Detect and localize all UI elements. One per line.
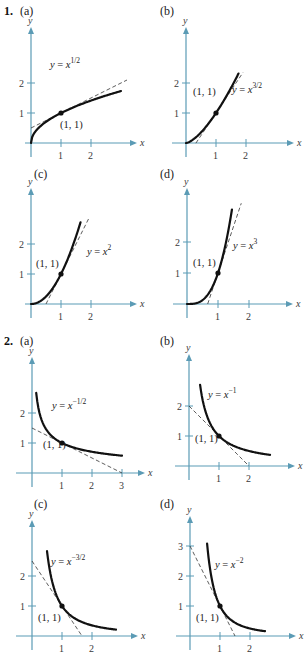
x-axis-label: x xyxy=(139,137,145,148)
y-tick-label: 2 xyxy=(178,571,183,582)
x-axis-label: x xyxy=(298,630,304,641)
x-axis-arrow-icon xyxy=(131,633,138,639)
y-axis-label: y xyxy=(27,176,33,187)
x-tick-label: 2 xyxy=(243,150,248,161)
x-tick-label: 1 xyxy=(216,473,221,484)
point-label: (1, 1) xyxy=(195,433,218,445)
x-tick-label: 1 xyxy=(59,643,64,654)
x-tick-label: 1 xyxy=(58,311,63,322)
y-tick-label: 1 xyxy=(20,438,25,449)
x-axis-label: x xyxy=(147,467,153,478)
x-axis-arrow-icon xyxy=(287,140,294,146)
x-axis-label: x xyxy=(295,298,301,309)
y-axis-arrow-icon xyxy=(183,27,189,34)
x-axis-arrow-icon xyxy=(288,463,295,469)
plot-2d: xy12123y = x−2(1, 1) xyxy=(176,504,304,654)
x-tick-label: 1 xyxy=(215,311,220,322)
y-axis-arrow-icon xyxy=(187,516,193,523)
x-tick-label: 1 xyxy=(213,150,218,161)
x-tick-label: 2 xyxy=(89,643,94,654)
y-tick-label: 2 xyxy=(177,401,182,412)
equation-label: y = x−1 xyxy=(207,386,237,400)
y-axis-arrow-icon xyxy=(28,27,34,34)
point-label: (1, 1) xyxy=(193,86,216,98)
problem-number-2: 2. xyxy=(4,334,13,348)
y-axis-arrow-icon xyxy=(29,520,35,527)
figure-canvas: 1. (a) (b) (c) (d) 2. (a) (b) (c) (d) xy… xyxy=(0,0,304,666)
x-tick-label: 1 xyxy=(59,480,64,491)
y-tick-label: 1 xyxy=(19,108,24,119)
y-axis-label: y xyxy=(183,176,189,187)
equation-label: y = x2 xyxy=(86,243,112,257)
plot-2a: xy12312y = x−1/2(1, 1) xyxy=(16,345,153,491)
x-axis-arrow-icon xyxy=(286,301,293,307)
y-tick-label: 1 xyxy=(175,268,180,279)
plot-2c: xy1212y = x−3/2(1, 1) xyxy=(16,508,146,654)
x-tick-label: 2 xyxy=(88,150,93,161)
x-axis-arrow-icon xyxy=(130,301,137,307)
point-label: (1, 1) xyxy=(196,612,219,624)
point-label: (1, 1) xyxy=(60,119,83,131)
y-axis-label: y xyxy=(182,15,188,26)
tangent-point xyxy=(58,110,63,115)
x-tick-label: 1 xyxy=(58,150,63,161)
x-axis-label: x xyxy=(139,298,145,309)
y-tick-label: 2 xyxy=(19,239,24,250)
y-tick-label: 1 xyxy=(174,108,179,119)
tangent-point xyxy=(59,603,64,608)
y-tick-label: 1 xyxy=(20,601,25,612)
y-axis-arrow-icon xyxy=(29,357,35,364)
tangent-point xyxy=(58,271,63,276)
panel-label-1b: (b) xyxy=(160,4,174,18)
panel-label-1c: (c) xyxy=(34,167,47,181)
y-axis-label: y xyxy=(185,342,191,353)
y-axis-arrow-icon xyxy=(186,354,192,361)
plot-2b: xy1212y = x−1(1, 1) xyxy=(175,342,303,484)
equation-label: y = x−2 xyxy=(214,556,244,570)
x-tick-label: 2 xyxy=(247,643,252,654)
panel-label-2b: (b) xyxy=(160,334,174,348)
y-tick-label: 2 xyxy=(20,408,25,419)
plot-1b: xy1212y = x3/2(1, 1) xyxy=(172,15,302,161)
panel-label-1d: (d) xyxy=(160,167,174,181)
x-axis-label: x xyxy=(296,137,302,148)
tangent-line xyxy=(32,428,122,473)
y-tick-label: 1 xyxy=(178,601,183,612)
point-label: (1, 1) xyxy=(43,439,66,451)
y-axis-arrow-icon xyxy=(184,188,190,195)
y-tick-label: 2 xyxy=(19,78,24,89)
x-tick-label: 2 xyxy=(246,473,251,484)
x-tick-label: 2 xyxy=(246,311,251,322)
plot-1d: xy1212y = x3(1, 1) xyxy=(173,176,301,322)
point-label: (1, 1) xyxy=(38,612,61,624)
point-label: (1, 1) xyxy=(193,257,216,269)
y-tick-label: 1 xyxy=(19,269,24,280)
x-tick-label: 1 xyxy=(217,643,222,654)
y-tick-label: 1 xyxy=(177,431,182,442)
x-axis-label: x xyxy=(297,460,303,471)
point-label: (1, 1) xyxy=(36,258,59,270)
y-axis-label: y xyxy=(28,345,34,356)
y-tick-label: 2 xyxy=(20,571,25,582)
y-tick-label: 3 xyxy=(178,541,183,552)
y-axis-label: y xyxy=(28,508,34,519)
y-axis-label: y xyxy=(186,504,192,515)
y-tick-label: 2 xyxy=(175,237,180,248)
x-axis-arrow-icon xyxy=(138,470,145,476)
equation-label: y = x−3/2 xyxy=(50,553,86,567)
panel-label-2c: (c) xyxy=(34,497,47,511)
tangent-point xyxy=(213,110,218,115)
x-axis-label: x xyxy=(140,630,146,641)
problem-number-1: 1. xyxy=(4,4,13,18)
x-tick-label: 2 xyxy=(89,480,94,491)
panel-label-2d: (d) xyxy=(160,497,174,511)
plot-1a: xy1212y = x1/2(1, 1) xyxy=(19,15,145,161)
x-axis-arrow-icon xyxy=(130,140,137,146)
function-curve xyxy=(31,91,121,143)
equation-label: y = x3/2 xyxy=(231,81,262,95)
x-tick-label: 2 xyxy=(88,311,93,322)
y-tick-label: 2 xyxy=(174,78,179,89)
y-axis-arrow-icon xyxy=(28,188,34,195)
equation-label: y = x−1/2 xyxy=(51,397,87,411)
plot-1c: xy1212y = x2(1, 1) xyxy=(19,176,145,322)
